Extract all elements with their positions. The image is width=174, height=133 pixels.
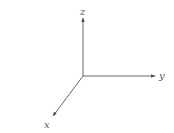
coordinate-axes-diagram: z y x — [0, 0, 174, 133]
x-axis — [53, 76, 83, 116]
z-axis-label: z — [79, 6, 86, 17]
y-axis-label: y — [158, 70, 165, 81]
x-axis-label: x — [44, 119, 50, 130]
